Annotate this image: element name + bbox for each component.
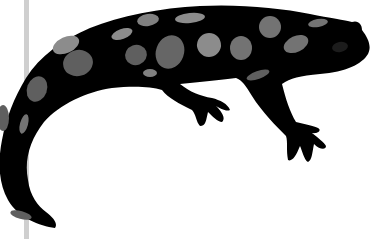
illustration-canvas [0,0,379,239]
salamander-illustration [0,0,379,239]
salamander-body [0,5,370,228]
